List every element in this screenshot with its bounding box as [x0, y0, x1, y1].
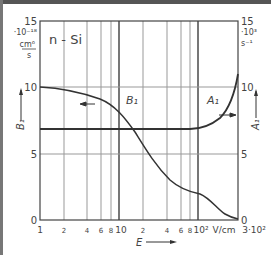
curve-label-a1: A₁	[206, 94, 219, 107]
svg-text:2: 2	[141, 227, 145, 235]
svg-text:0: 0	[31, 215, 37, 226]
svg-text:4: 4	[165, 227, 170, 235]
left-axis-unit-numerator: cm⁶	[20, 40, 35, 49]
svg-text:8: 8	[109, 227, 113, 235]
svg-text:5: 5	[31, 149, 37, 160]
svg-text:8: 8	[188, 227, 192, 235]
right-axis-unit: s⁻¹	[241, 39, 253, 48]
x-axis-arrow	[146, 240, 177, 244]
x-axis-ticks: 1 2 4 6 8 10 2 4 6 8 10² V/cm 3·10²	[37, 225, 266, 235]
x-axis-label: E	[136, 237, 143, 248]
left-axis-label: B₁	[15, 119, 26, 130]
svg-text:4: 4	[85, 227, 90, 235]
svg-text:V/cm: V/cm	[213, 225, 236, 235]
svg-text:15: 15	[24, 16, 37, 27]
right-axis-arrow	[254, 89, 258, 118]
svg-text:6: 6	[99, 227, 104, 235]
right-axis-label: A₁	[250, 119, 261, 131]
chart-title: n - Si	[49, 32, 82, 47]
right-axis-scale: ·10³	[241, 28, 257, 37]
svg-text:15: 15	[241, 16, 254, 27]
curve-label-b1: B₁	[126, 94, 138, 107]
chart: B₁ A₁ n - Si 15 10 5 0 ·10⁻¹⁸ cm⁶ s B₁ 1…	[0, 0, 271, 255]
svg-text:6: 6	[179, 227, 184, 235]
svg-text:3·10²: 3·10²	[242, 225, 266, 235]
svg-text:10: 10	[24, 82, 37, 93]
left-axis-arrow	[19, 88, 23, 120]
svg-text:1: 1	[37, 225, 43, 235]
svg-text:10: 10	[241, 82, 254, 93]
left-axis-unit-denominator: s	[27, 51, 31, 60]
svg-text:5: 5	[241, 149, 247, 160]
svg-text:10: 10	[115, 225, 127, 235]
svg-text:10²: 10²	[193, 225, 208, 235]
plot-frame	[40, 21, 238, 220]
left-axis-scale: ·10⁻¹⁸	[14, 28, 37, 37]
svg-text:2: 2	[62, 227, 66, 235]
